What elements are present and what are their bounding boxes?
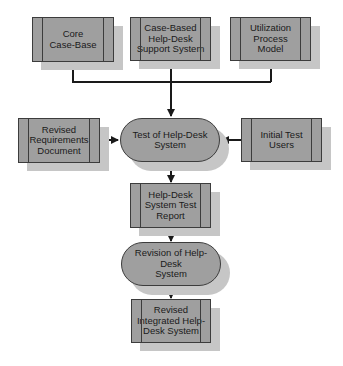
box-side-bar — [140, 184, 141, 227]
box-side-bar — [103, 18, 104, 61]
box-side-bar — [140, 18, 141, 60]
box-side-bar — [240, 18, 241, 60]
box-side-bar — [200, 18, 201, 60]
node-box: Revised Integrated Help- Desk System — [131, 299, 211, 343]
node-label: Initial Test Users — [256, 130, 306, 151]
box-side-bar — [311, 119, 312, 161]
box-side-bar — [141, 300, 142, 342]
node-label: Test of Help-Desk System — [121, 130, 219, 151]
node-label: Utilization Process Model — [246, 23, 295, 55]
box-side-bar — [200, 300, 201, 342]
box-side-bar — [300, 18, 301, 60]
node-label: Core Case-Base — [46, 29, 101, 50]
node-label: Case-Based Help-Desk Support System — [133, 23, 209, 55]
node-label: Revised Requirements Document — [25, 125, 92, 157]
node-label: Help-Desk System Test Report — [141, 190, 201, 222]
box-side-bar — [251, 119, 252, 161]
node-box: Case-Based Help-Desk Support System — [130, 17, 211, 61]
node-label: Revised Integrated Help- Desk System — [133, 305, 209, 337]
node-box: Initial Test Users — [241, 118, 322, 162]
process-oval: Test of Help-Desk System — [120, 118, 220, 162]
node-box: Revised Requirements Document — [18, 118, 100, 163]
node-box: Utilization Process Model — [230, 17, 311, 61]
box-side-bar — [28, 119, 29, 162]
node-box: Core Case-Base — [32, 17, 114, 62]
box-side-bar — [89, 119, 90, 162]
box-side-bar — [200, 184, 201, 227]
node-box: Help-Desk System Test Report — [130, 183, 211, 228]
node-label: Revision of Help-Desk System — [122, 248, 220, 280]
process-oval: Revision of Help-Desk System — [121, 242, 221, 286]
box-side-bar — [42, 18, 43, 61]
